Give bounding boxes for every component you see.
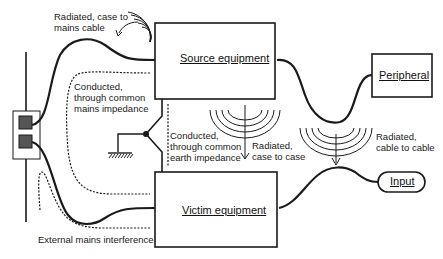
- earth-lead: [118, 134, 146, 152]
- socket-top: [19, 116, 32, 129]
- victim-equipment-label: Victim equipment: [182, 204, 266, 216]
- peripheral-label: Peripheral: [379, 69, 429, 81]
- earth-node: [143, 131, 149, 137]
- radiation-waves-case-to-mains: [128, 12, 151, 42]
- conducted-mains-label: Conducted, through common mains impedanc…: [74, 81, 148, 114]
- radiated-cable-to-cable-label: Radiated, cable to cable: [376, 131, 435, 153]
- radiated-case-to-mains-label: Radiated, case to mains cable: [54, 11, 128, 33]
- source-equipment-label: Source equipment: [180, 52, 269, 64]
- ground-symbol: [109, 154, 133, 158]
- external-mains-label: External mains interference: [38, 234, 154, 245]
- external-mains-path: [39, 172, 150, 228]
- victim-mains-cable: [32, 142, 155, 224]
- input-label: Input: [390, 175, 414, 187]
- radiated-case-to-case-label: Radiated, case to case: [252, 140, 305, 162]
- conducted-earth-label: Conducted, through common earth impedanc…: [170, 130, 241, 163]
- socket-bottom: [19, 135, 32, 148]
- input-cable: [279, 167, 378, 208]
- peripheral-cable: [277, 60, 372, 123]
